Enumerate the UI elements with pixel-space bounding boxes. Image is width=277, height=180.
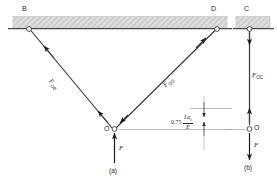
pin-C	[247, 27, 252, 32]
pin-O-right	[247, 127, 252, 132]
node-label-B: B	[22, 5, 27, 12]
node-label-C: C	[244, 5, 249, 12]
dimension-numerator-subscript: t	[191, 117, 192, 122]
node-label-O-left: O	[104, 125, 109, 132]
dimension-denominator: E	[186, 124, 190, 130]
dimension-coefficient: 0.75	[171, 119, 182, 125]
node-label-O-right: O	[254, 124, 259, 131]
support-bar-right	[236, 17, 270, 29]
dimension-numerator: Lαt	[183, 114, 193, 124]
support-bar-left	[13, 17, 227, 29]
node-label-D: D	[211, 5, 216, 12]
member-OB	[30, 30, 112, 129]
pin-D	[215, 27, 220, 32]
pin-O-left	[112, 127, 117, 132]
caption-a: (a)	[109, 168, 117, 175]
applied-force-label-a: F	[119, 145, 123, 152]
engineering-free-body-diagram: B D C O O FOB FOD FOC F F 0.75 Lαt E (a)…	[0, 0, 277, 180]
force-subscript-OC: OC	[256, 75, 263, 80]
caption-b: (b)	[244, 165, 252, 172]
diagram-canvas	[0, 0, 277, 180]
dimension-fraction: Lαt E	[183, 114, 193, 130]
dimension-label: 0.75 Lαt E	[171, 114, 193, 130]
pin-B	[27, 27, 32, 32]
applied-force-label-b: F	[254, 142, 258, 149]
force-label-F-OC: FOC	[252, 72, 263, 81]
